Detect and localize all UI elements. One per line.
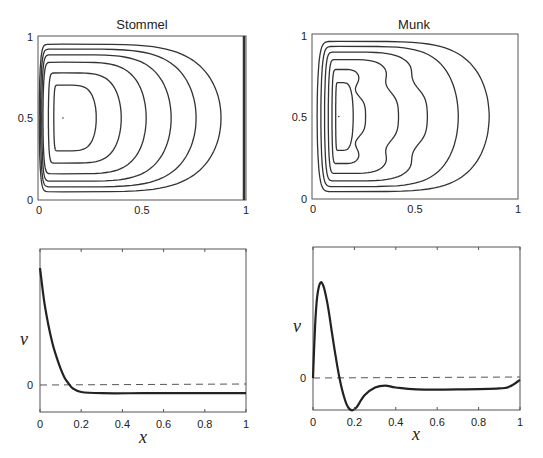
munk-frame xyxy=(312,34,518,199)
y-tick: 0 xyxy=(300,372,306,384)
stommel-v-curve xyxy=(40,268,246,393)
stommel-velocity-panel: v 0 x 00.20.40.60.81 xyxy=(20,249,249,447)
x-tick: 0.8 xyxy=(197,418,212,430)
center-point xyxy=(62,117,64,119)
stommel-frame xyxy=(38,36,246,200)
y-axis-label: v xyxy=(20,329,28,349)
x-tick: 0.2 xyxy=(74,418,89,430)
x-tick: 0 xyxy=(37,418,43,430)
contour-line xyxy=(321,46,458,186)
munk-title: Munk xyxy=(398,17,430,32)
munk-contours xyxy=(317,41,489,191)
y-tick: 0 xyxy=(301,193,307,205)
x-tick: 0.8 xyxy=(471,416,486,428)
x-tick: 1 xyxy=(243,204,249,216)
contour-line xyxy=(325,52,428,181)
munk-v-curve xyxy=(313,282,520,410)
stommel-contour-panel: Stommel 1 0.5 0 0 0.5 1 xyxy=(18,17,249,216)
contour-line xyxy=(54,85,96,151)
contour-line xyxy=(41,49,197,187)
x-tick: 0.5 xyxy=(134,204,149,216)
contour-line xyxy=(48,73,121,163)
x-tick: 0.4 xyxy=(115,418,130,430)
x-tick: 0 xyxy=(310,416,316,428)
center-point xyxy=(338,116,340,118)
y-tick: 0 xyxy=(27,379,33,391)
y-tick: 0 xyxy=(27,194,33,206)
munk-velocity-panel: v 0 x 00.20.40.60.81 xyxy=(293,247,523,444)
contour-line xyxy=(39,44,221,192)
x-tick: 0.6 xyxy=(156,418,171,430)
y-axis-label: v xyxy=(293,316,301,336)
x-tick: 0.4 xyxy=(388,416,403,428)
stommel-title: Stommel xyxy=(116,17,167,32)
munk-v-frame xyxy=(313,247,520,410)
x-tick: 0.5 xyxy=(407,203,422,215)
stommel-contours xyxy=(39,44,221,192)
x-tick: 1 xyxy=(517,416,523,428)
x-axis-label: x xyxy=(138,427,147,447)
x-tick: 1 xyxy=(515,203,521,215)
x-axis-label: x xyxy=(411,424,420,444)
figure: Stommel 1 0.5 0 0 0.5 1 Munk 1 0.5 0 0 0… xyxy=(0,0,543,458)
contour-line xyxy=(42,55,171,181)
y-tick: 0.5 xyxy=(292,111,307,123)
x-tick: 0 xyxy=(310,203,316,215)
x-tick: 0.2 xyxy=(347,416,362,428)
zero-line xyxy=(313,377,520,378)
y-tick: 1 xyxy=(27,31,33,43)
contour-line xyxy=(43,62,146,174)
x-tick: 1 xyxy=(243,418,249,430)
y-tick: 0.5 xyxy=(18,112,33,124)
y-tick: 1 xyxy=(301,30,307,42)
munk-contour-panel: Munk 1 0.5 0 0 0.5 1 xyxy=(292,17,521,215)
x-tick: 0.6 xyxy=(430,416,445,428)
x-tick: 0 xyxy=(36,204,42,216)
contour-line xyxy=(317,41,489,191)
